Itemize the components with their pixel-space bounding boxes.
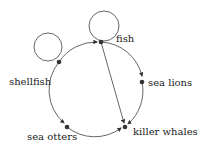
label-sea-otters: sea otters <box>27 131 77 142</box>
node-sea-lions <box>140 80 145 85</box>
edge-sea-lions-to-killer-whales <box>128 82 143 124</box>
node-fish <box>99 40 104 45</box>
label-fish: fish <box>116 33 135 44</box>
edge-shellfish-to-fish <box>59 42 97 62</box>
edge-shellfish-self-loop <box>34 33 62 61</box>
edge-fish-to-sea-lions <box>101 42 142 76</box>
edge-fish-self-loop <box>89 11 119 41</box>
label-killer-whales: killer whales <box>133 126 198 137</box>
node-sea-otters <box>65 125 70 130</box>
label-sea-lions: sea lions <box>148 77 192 88</box>
food-web-diagram: fish shellfish sea lions killer whales s… <box>0 0 199 147</box>
label-shellfish: shellfish <box>9 76 52 87</box>
edge-shellfish-to-sea-otters <box>49 62 64 123</box>
edge-fish-to-killer-whales <box>101 42 124 123</box>
node-shellfish <box>57 60 62 65</box>
node-killer-whales <box>123 125 128 130</box>
